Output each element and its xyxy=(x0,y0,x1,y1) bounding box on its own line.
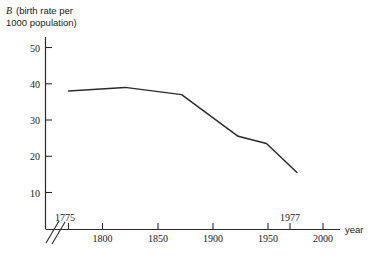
x-tick-label-1775: 1775 xyxy=(55,212,75,223)
series-birth-rate xyxy=(69,87,297,172)
y-tick-label-30: 30 xyxy=(30,115,40,126)
x-tick-label-1850: 1850 xyxy=(148,233,168,244)
y-axis-caption-line1: (birth rate per xyxy=(16,5,73,16)
birth-rate-line-chart: B (birth rate per 1000 population) 50 40… xyxy=(0,0,371,259)
y-tick-label-50: 50 xyxy=(30,43,40,54)
x-tick-label-1950: 1950 xyxy=(258,233,278,244)
y-axis-tick-labels: 50 40 30 20 10 xyxy=(30,43,40,199)
chart-container: B (birth rate per 1000 population) 50 40… xyxy=(0,0,371,259)
x-tick-label-1977: 1977 xyxy=(280,212,300,223)
y-tick-label-40: 40 xyxy=(30,79,40,90)
x-tick-label-2000: 2000 xyxy=(313,233,333,244)
axis-break-marks xyxy=(46,221,65,244)
y-tick-label-10: 10 xyxy=(30,188,40,199)
x-axis-ticks xyxy=(69,223,324,230)
y-axis-symbol: B xyxy=(6,5,12,16)
y-axis-ticks xyxy=(46,48,53,193)
x-axis-label: year xyxy=(345,224,363,235)
x-tick-label-1800: 1800 xyxy=(93,233,113,244)
y-tick-label-20: 20 xyxy=(30,151,40,162)
x-tick-label-1900: 1900 xyxy=(203,233,223,244)
y-axis-caption-line2: 1000 population) xyxy=(6,17,77,28)
x-axis-tick-labels: 1775 1800 1850 1900 1950 1977 2000 xyxy=(55,212,333,244)
